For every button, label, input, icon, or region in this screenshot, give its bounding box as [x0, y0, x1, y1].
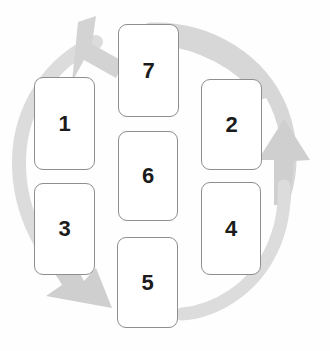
- card-4-label: 4: [225, 218, 237, 240]
- card-3[interactable]: 3: [34, 183, 95, 275]
- card-7-label: 7: [142, 60, 154, 82]
- card-6-label: 6: [142, 165, 154, 187]
- clockwise-arc-arrowhead-up: [258, 119, 310, 205]
- card-5[interactable]: 5: [117, 237, 178, 328]
- card-4[interactable]: 4: [201, 182, 261, 275]
- card-3-label: 3: [58, 218, 70, 240]
- card-6[interactable]: 6: [118, 131, 178, 221]
- card-1[interactable]: 1: [34, 77, 95, 170]
- card-2-label: 2: [225, 114, 237, 136]
- top-left-arrowhead-down-right: [72, 16, 124, 82]
- card-1-label: 1: [58, 113, 70, 135]
- card-2[interactable]: 2: [201, 79, 262, 170]
- card-7[interactable]: 7: [118, 24, 179, 117]
- card-5-label: 5: [141, 272, 153, 294]
- cycle-diagram: 1 2 3 4 5 6 7: [0, 0, 330, 351]
